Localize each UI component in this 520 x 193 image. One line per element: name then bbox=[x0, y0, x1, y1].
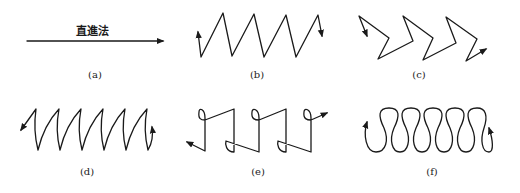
panel-e: (e) bbox=[187, 109, 327, 177]
panel-a-caption: 直進法 bbox=[76, 24, 109, 38]
chevron-path bbox=[359, 16, 486, 61]
panel-b: (b) bbox=[198, 13, 322, 80]
panel-b-label: (b) bbox=[250, 69, 264, 80]
panel-f-label: (f) bbox=[426, 166, 438, 177]
figure-eight-path bbox=[365, 108, 492, 152]
curved-sawtooth-path bbox=[21, 109, 153, 150]
panel-d-label: (d) bbox=[80, 166, 94, 177]
panel-d: (d) bbox=[21, 109, 153, 177]
zigzag-path bbox=[198, 13, 322, 57]
panel-c-label: (c) bbox=[412, 69, 426, 80]
panel-c: (c) bbox=[359, 16, 486, 80]
panel-e-label: (e) bbox=[251, 166, 265, 177]
panel-f: (f) bbox=[365, 108, 492, 177]
panel-a-label: (a) bbox=[88, 69, 102, 80]
weaving-patterns-diagram: 直進法 (a) (b) (c) (d) (e) (f) bbox=[0, 0, 520, 193]
looped-square-wave-path bbox=[187, 109, 327, 152]
panel-a: 直進法 (a) bbox=[27, 24, 163, 80]
